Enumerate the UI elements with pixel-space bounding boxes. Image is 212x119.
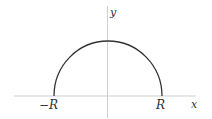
y-axis-label: y <box>109 6 117 19</box>
semicircle-diagram: y x −R R <box>0 0 212 119</box>
r-label: R <box>155 98 165 112</box>
minus-r-label: −R <box>39 98 58 112</box>
x-axis-label: x <box>191 98 198 111</box>
